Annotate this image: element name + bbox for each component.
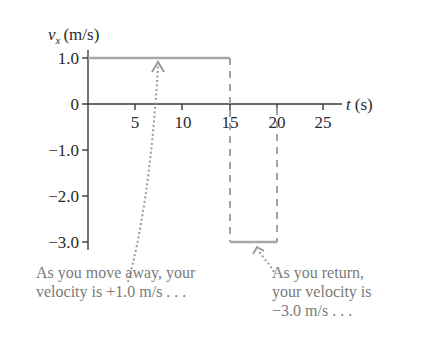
annotation-arrow-left [128,62,164,282]
caption-move-away-line2: velocity is +1.0 m/s . . . [36,282,195,301]
y-tick-label-minus2: −2.0 [48,187,79,206]
y-axis-title: vx(m/s) [48,25,99,46]
caption-return: As you return, your velocity is −3.0 m/s… [272,263,372,320]
caption-return-line3: −3.0 m/s . . . [272,301,372,320]
dotted-arrow-line-left [128,66,158,282]
velocity-series [88,58,277,242]
caption-return-line2: your velocity is [272,282,372,301]
x-tick-label-10: 10 [175,113,192,132]
arrow-head-upleft-icon [253,247,264,254]
x-tick-label-25: 25 [315,113,332,132]
annotation-arrow-right [253,247,274,272]
x-axis-title: t(s) [346,95,373,114]
y-tick-label-1: 1.0 [58,49,79,68]
y-tick-labels: 1.0 0 −1.0 −2.0 −3.0 [48,49,79,252]
caption-move-away: As you move away, your velocity is +1.0 … [36,263,195,301]
y-tick-label-minus1: −1.0 [48,141,79,160]
caption-move-away-line1: As you move away, your [36,263,195,282]
y-tick-label-minus3: −3.0 [48,233,79,252]
y-ticks [82,58,88,242]
x-ticks [135,104,323,110]
x-tick-labels: 5 10 15 20 25 [131,113,332,132]
x-tick-label-5: 5 [131,113,140,132]
y-tick-label-0: 0 [71,95,80,114]
caption-return-line1: As you return, [272,263,372,282]
